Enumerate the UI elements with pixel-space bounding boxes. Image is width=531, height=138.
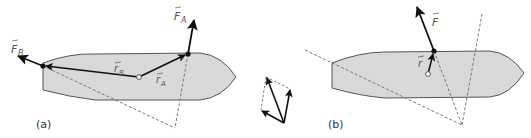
label-force-b: F B: [11, 40, 24, 58]
center-point-a: [137, 75, 142, 80]
svg-text:A: A: [160, 80, 166, 88]
panel-b: F r (b): [305, 7, 524, 131]
svg-text:F: F: [11, 43, 18, 56]
panel-label-b: (b): [328, 118, 344, 131]
panel-a: F A F B r B r A (a): [11, 7, 236, 131]
label-force-a: F A: [174, 7, 186, 25]
force-vector-a: [188, 20, 194, 54]
resultant-vector: [267, 78, 284, 123]
component-vector-a: [284, 90, 290, 123]
center-point-b: [426, 72, 431, 77]
panel-label-a: (a): [36, 118, 51, 131]
svg-text:B: B: [18, 49, 24, 58]
force-vector: [417, 7, 434, 51]
svg-text:F: F: [432, 16, 439, 29]
label-force: F: [432, 13, 439, 29]
application-point-b: [40, 63, 45, 68]
torque-diagram: F A F B r B r A (a): [0, 0, 531, 138]
svg-text:A: A: [180, 16, 186, 25]
svg-text:B: B: [119, 69, 124, 77]
vector-sum-parallelogram: [261, 77, 290, 123]
svg-text:F: F: [174, 10, 181, 23]
application-point: [431, 48, 436, 53]
application-point-a: [185, 51, 190, 56]
